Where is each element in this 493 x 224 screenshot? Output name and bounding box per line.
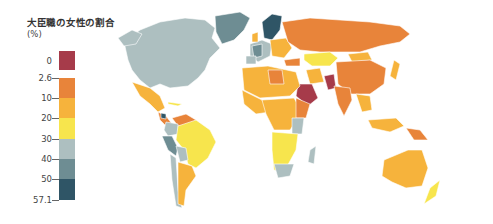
world-map bbox=[0, 0, 493, 224]
region-kazakhstan bbox=[304, 52, 338, 66]
region-spain bbox=[246, 56, 256, 64]
region-scandinavia bbox=[262, 14, 282, 40]
region-indonesia bbox=[368, 118, 404, 132]
region-libya bbox=[268, 70, 284, 84]
region-uk bbox=[252, 32, 258, 42]
region-colombia bbox=[164, 122, 178, 136]
region-nicaragua bbox=[161, 113, 166, 119]
region-argentina bbox=[178, 162, 196, 206]
region-new-zealand bbox=[424, 180, 440, 204]
region-peru bbox=[162, 136, 178, 156]
region-japan bbox=[390, 60, 400, 80]
region-greenland bbox=[215, 12, 250, 44]
region-north-america bbox=[124, 18, 220, 88]
region-madagascar bbox=[308, 146, 316, 164]
region-cuba bbox=[168, 102, 182, 106]
region-bolivia bbox=[176, 146, 188, 162]
region-papua bbox=[406, 128, 428, 140]
region-turkey bbox=[284, 58, 300, 66]
region-india bbox=[334, 86, 352, 116]
region-australia bbox=[382, 150, 428, 188]
region-iran bbox=[306, 68, 324, 84]
region-kenya-tanzania bbox=[292, 118, 304, 134]
region-russia bbox=[282, 18, 410, 52]
region-southeast-asia bbox=[356, 94, 372, 112]
region-south-africa bbox=[274, 164, 294, 178]
